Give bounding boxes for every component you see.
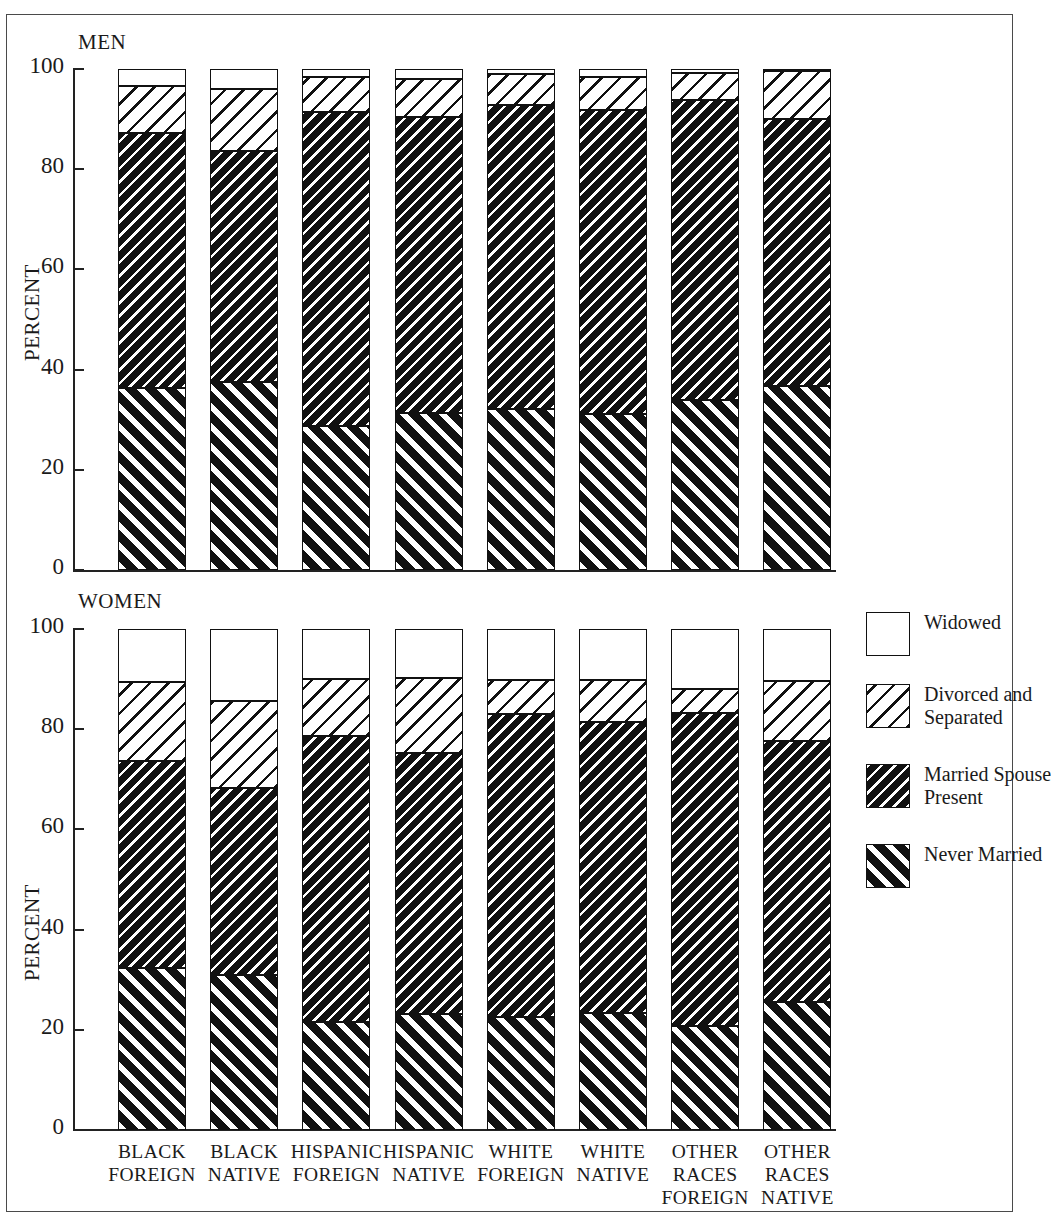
bar-segment-divorced-separated bbox=[302, 77, 370, 112]
stacked-bar bbox=[671, 69, 739, 570]
stacked-bar bbox=[210, 69, 278, 570]
bar-segment-never-married bbox=[302, 1022, 370, 1130]
legend-never-married-swatch bbox=[866, 844, 910, 888]
x-axis-label-line: BLACK bbox=[102, 1140, 202, 1163]
x-axis-label-line: OTHER bbox=[655, 1140, 755, 1163]
bar-segment-divorced-separated bbox=[763, 71, 831, 119]
x-axis-label-2: HISPANICFOREIGN bbox=[286, 1140, 386, 1186]
bar-segment-widowed bbox=[763, 69, 831, 71]
y-tick-label-20: 20 bbox=[0, 1014, 64, 1040]
x-axis-label-line: NATIVE bbox=[379, 1163, 479, 1186]
x-axis-label-4: WHITEFOREIGN bbox=[471, 1140, 571, 1186]
legend-label-line: Divorced and bbox=[924, 683, 1032, 706]
y-tick-label-20: 20 bbox=[0, 454, 64, 480]
x-axis-label-1: BLACKNATIVE bbox=[194, 1140, 294, 1186]
bar-segment-divorced-separated bbox=[210, 701, 278, 788]
y-tick-label-100: 100 bbox=[0, 53, 64, 79]
legend-item: Widowed bbox=[866, 612, 1016, 664]
bar-segment-never-married bbox=[763, 1002, 831, 1130]
x-axis-label-line: WHITE bbox=[471, 1140, 571, 1163]
x-axis-label-line: NATIVE bbox=[194, 1163, 294, 1186]
bar-segment-married-spouse-present bbox=[395, 753, 463, 1014]
bar-segment-married-spouse-present bbox=[210, 151, 278, 382]
y-tick-label-60: 60 bbox=[0, 253, 64, 279]
y-tick-label-40: 40 bbox=[0, 914, 64, 940]
x-axis-label-line: FOREIGN bbox=[286, 1163, 386, 1186]
x-axis-label-line: WHITE bbox=[563, 1140, 663, 1163]
stacked-bar bbox=[487, 69, 555, 570]
stacked-bar bbox=[302, 69, 370, 570]
bar-segment-married-spouse-present bbox=[302, 736, 370, 1022]
y-tick-40 bbox=[73, 369, 84, 371]
y-tick-100 bbox=[73, 628, 84, 630]
x-axis-label-3: HISPANICNATIVE bbox=[379, 1140, 479, 1186]
bar-segment-divorced-separated bbox=[118, 682, 186, 761]
bar-segment-widowed bbox=[395, 629, 463, 678]
y-tick-80 bbox=[73, 728, 84, 730]
bar-segment-married-spouse-present bbox=[118, 761, 186, 967]
legend-item: Divorced andSeparated bbox=[866, 684, 1016, 736]
bar-segment-widowed bbox=[763, 629, 831, 681]
bar-segment-married-spouse-present bbox=[579, 110, 647, 414]
stacked-bar bbox=[118, 629, 186, 1130]
stacked-bar bbox=[395, 69, 463, 570]
x-axis-label-line: BLACK bbox=[194, 1140, 294, 1163]
stacked-bar bbox=[579, 69, 647, 570]
legend-widowed-swatch bbox=[866, 612, 910, 656]
bar-segment-widowed bbox=[118, 69, 186, 86]
x-axis-label-line: RACES bbox=[747, 1163, 847, 1186]
bar-segment-widowed bbox=[579, 69, 647, 77]
legend-item: Never Married bbox=[866, 844, 1016, 896]
legend-divorced-swatch bbox=[866, 684, 910, 728]
bar-segment-widowed bbox=[671, 629, 739, 689]
bar-segment-never-married bbox=[671, 400, 739, 570]
y-axis-line-women bbox=[73, 629, 75, 1131]
bar-segment-divorced-separated bbox=[579, 680, 647, 722]
bar-segment-never-married bbox=[118, 968, 186, 1130]
bar-segment-divorced-separated bbox=[395, 79, 463, 117]
bar-segment-never-married bbox=[579, 1013, 647, 1130]
y-tick-label-40: 40 bbox=[0, 354, 64, 380]
x-axis-label-line: FOREIGN bbox=[471, 1163, 571, 1186]
bar-segment-married-spouse-present bbox=[210, 788, 278, 974]
panel-title-men: MEN bbox=[78, 30, 126, 55]
stacked-bar bbox=[118, 69, 186, 570]
x-axis-label-0: BLACKFOREIGN bbox=[102, 1140, 202, 1186]
bar-segment-divorced-separated bbox=[118, 86, 186, 133]
legend-label-line: Married Spouse bbox=[924, 763, 1051, 786]
y-tick-0 bbox=[73, 1129, 84, 1131]
y-axis-line-men bbox=[73, 69, 75, 572]
legend-label: Never Married bbox=[924, 843, 1042, 866]
bar-segment-divorced-separated bbox=[395, 678, 463, 753]
stacked-bar bbox=[671, 629, 739, 1130]
bar-segment-never-married bbox=[118, 388, 186, 570]
x-axis-label-6: OTHERRACESFOREIGN bbox=[655, 1140, 755, 1209]
bar-segment-widowed bbox=[671, 69, 739, 73]
y-tick-label-80: 80 bbox=[0, 713, 64, 739]
bar-segment-married-spouse-present bbox=[487, 714, 555, 1017]
bar-segment-married-spouse-present bbox=[671, 713, 739, 1026]
y-tick-label-80: 80 bbox=[0, 153, 64, 179]
stacked-bar bbox=[579, 629, 647, 1130]
x-axis-label-line: HISPANIC bbox=[286, 1140, 386, 1163]
panel-title-women: WOMEN bbox=[78, 589, 162, 614]
bar-segment-married-spouse-present bbox=[763, 741, 831, 1002]
x-axis-label-line: OTHER bbox=[747, 1140, 847, 1163]
bar-segment-widowed bbox=[210, 629, 278, 701]
bar-segment-widowed bbox=[487, 629, 555, 680]
y-tick-label-60: 60 bbox=[0, 813, 64, 839]
y-tick-20 bbox=[73, 1029, 84, 1031]
y-tick-20 bbox=[73, 469, 84, 471]
y-tick-40 bbox=[73, 929, 84, 931]
stacked-bar bbox=[763, 629, 831, 1130]
bar-segment-never-married bbox=[487, 409, 555, 570]
y-tick-label-0: 0 bbox=[0, 1114, 64, 1140]
legend-label: Divorced andSeparated bbox=[924, 683, 1032, 729]
x-axis-label-line: HISPANIC bbox=[379, 1140, 479, 1163]
bar-segment-married-spouse-present bbox=[118, 133, 186, 389]
x-axis-label-line: FOREIGN bbox=[655, 1186, 755, 1209]
bar-segment-never-married bbox=[395, 1014, 463, 1130]
bar-segment-widowed bbox=[579, 629, 647, 680]
bar-segment-never-married bbox=[210, 975, 278, 1130]
y-tick-80 bbox=[73, 168, 84, 170]
